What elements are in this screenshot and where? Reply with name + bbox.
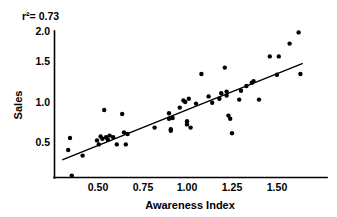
x-tick-label-4: 1.50: [267, 181, 288, 193]
scatter-point: [223, 65, 227, 69]
scatter-point: [199, 72, 203, 76]
scatter-point: [210, 101, 214, 105]
y-tick-label-2: 2.0: [35, 25, 50, 37]
scatter-point: [296, 30, 300, 34]
scatter-point: [275, 73, 279, 77]
scatter-point: [169, 129, 173, 133]
scatter-point: [68, 136, 72, 140]
scatter-point: [224, 93, 228, 97]
scatter-point: [228, 117, 232, 121]
scatter-point: [167, 111, 171, 115]
scatter-point: [244, 84, 248, 88]
y-axis: 2.0 1.5 1.0 0.5 Sales: [12, 25, 55, 178]
scatter-point: [152, 125, 156, 129]
scatter-point: [178, 105, 182, 109]
scatter-point: [194, 101, 198, 105]
scatter-point: [230, 131, 234, 135]
scatter-point: [239, 89, 243, 93]
scatter-point: [251, 79, 255, 83]
scatter-point: [120, 112, 124, 116]
scatter-point: [217, 97, 221, 101]
scatter-point: [97, 142, 101, 146]
scatter-point: [183, 100, 187, 104]
scatter-point: [95, 138, 99, 142]
y-tick-label-1: 1.5: [35, 55, 50, 67]
scatter-point: [102, 108, 106, 112]
x-axis-title: Awareness Index: [145, 199, 236, 211]
scatter-point: [206, 94, 210, 98]
scatter-point: [111, 135, 115, 139]
scatter-point: [70, 173, 74, 177]
scatter-point: [257, 97, 261, 101]
scatter-point: [80, 153, 84, 157]
y-tick-label-half: 0.5: [35, 136, 50, 148]
scatter-point: [188, 125, 192, 129]
scatter-point: [106, 137, 110, 141]
scatter-point: [170, 116, 174, 120]
plot-canvas: r²= 0.73 2.0 1.5 1.0 0.5 Sales 0.50 0.75…: [0, 0, 337, 217]
scatter-point: [298, 72, 302, 76]
scatter-point: [66, 148, 70, 152]
scatter-chart-figure: r²= 0.73 2.0 1.5 1.0 0.5 Sales 0.50 0.75…: [0, 0, 337, 217]
scatter-point: [124, 142, 128, 146]
scatter-point: [277, 54, 281, 58]
scatter-point: [224, 89, 228, 93]
y-tick-label-0: 1.0: [35, 96, 50, 108]
x-tick-label-2: 1.00: [177, 181, 198, 193]
scatter-point: [187, 97, 191, 101]
scatter-point-group: [66, 30, 303, 178]
scatter-point: [219, 91, 223, 95]
scatter-point: [237, 97, 241, 101]
r-squared-annotation: r²= 0.73: [22, 10, 59, 22]
x-tick-label-3: 1.25: [222, 181, 243, 193]
x-tick-label-1: 0.75: [133, 181, 154, 193]
x-tick-label-0: 0.50: [88, 181, 109, 193]
scatter-point: [125, 132, 129, 136]
y-axis-title: Sales: [12, 91, 24, 120]
scatter-point: [287, 41, 291, 45]
scatter-point: [115, 142, 119, 146]
x-axis: 0.50 0.75 1.00 1.25 1.50 Awareness Index: [54, 178, 327, 212]
scatter-point: [185, 122, 189, 126]
scatter-point: [268, 54, 272, 58]
